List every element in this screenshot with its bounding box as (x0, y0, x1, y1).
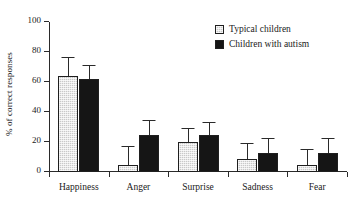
error-bar-cap (83, 65, 96, 66)
bar (258, 153, 278, 173)
bar-chart-figure: % of correct responses 020406080100 Happ… (0, 0, 357, 211)
legend-swatch-autism-icon (215, 40, 224, 49)
y-tick: 20 (44, 141, 49, 142)
x-tick (228, 172, 229, 177)
error-bar-cap (121, 146, 134, 147)
bar (118, 165, 138, 173)
error-bar-cap (262, 138, 275, 139)
y-tick-label: 0 (37, 164, 42, 177)
legend: Typical children Children with autism (215, 22, 355, 52)
y-axis-line (49, 22, 50, 172)
error-bar-cap (181, 128, 194, 129)
legend-entry-typical: Typical children (215, 22, 355, 36)
bar (318, 153, 338, 173)
bar (297, 165, 317, 173)
y-tick: 80 (44, 51, 49, 52)
x-category-label: Anger (127, 181, 151, 194)
error-bar-cap (62, 57, 75, 58)
x-category-label: Surprise (182, 181, 214, 194)
y-tick-label: 80 (32, 44, 41, 57)
error-bar (188, 129, 189, 143)
error-bar (149, 121, 150, 135)
bar (139, 135, 159, 173)
legend-swatch-typical-icon (215, 25, 224, 34)
error-bar-cap (142, 120, 155, 121)
error-bar (268, 139, 269, 153)
error-bar (209, 123, 210, 135)
y-tick: 100 (44, 21, 49, 22)
bar (237, 159, 257, 173)
error-bar-cap (321, 138, 334, 139)
x-tick (347, 172, 348, 177)
error-bar-cap (300, 149, 313, 150)
y-tick-label: 100 (28, 14, 42, 27)
bar (58, 76, 78, 172)
error-bar (128, 147, 129, 165)
legend-entry-autism: Children with autism (215, 37, 355, 51)
error-bar (247, 144, 248, 159)
legend-label-autism: Children with autism (229, 38, 309, 51)
x-category-label: Fear (309, 181, 326, 194)
y-tick: 60 (44, 81, 49, 82)
y-axis-label: % of correct responses (2, 8, 16, 180)
x-tick (109, 172, 110, 177)
error-bar (68, 58, 69, 76)
x-category-label: Sadness (242, 181, 273, 194)
bar (79, 79, 99, 172)
bar (199, 135, 219, 173)
error-bar-cap (202, 122, 215, 123)
y-tick-label: 60 (32, 74, 41, 87)
error-bar (307, 150, 308, 165)
error-bar (328, 139, 329, 153)
x-category-label: Happiness (59, 181, 99, 194)
x-tick (287, 172, 288, 177)
error-bar (89, 66, 90, 80)
x-tick (168, 172, 169, 177)
x-tick (49, 172, 50, 177)
y-tick-label: 40 (32, 104, 41, 117)
error-bar-cap (241, 143, 254, 144)
legend-label-typical: Typical children (229, 23, 291, 36)
y-tick-label: 20 (32, 134, 41, 147)
y-tick: 40 (44, 111, 49, 112)
bar (178, 142, 198, 172)
